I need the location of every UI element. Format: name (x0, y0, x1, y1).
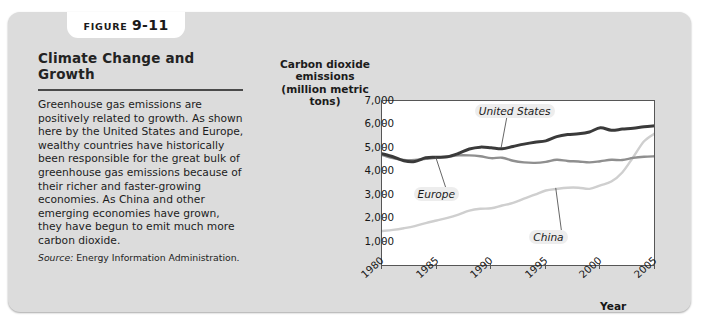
figure-heading: Climate Change and Growth (38, 50, 253, 82)
y-tick-label: 6,000 (365, 117, 394, 129)
figure-number-tab: FIGURE 9-11 (67, 12, 185, 38)
y-tick-label: 7,000 (365, 94, 394, 106)
y-tick-mark (381, 217, 386, 218)
series-line (382, 133, 655, 231)
source-value: Energy Information Administration. (76, 252, 239, 263)
x-axis-title: Year (600, 300, 626, 312)
y-tick-mark (381, 194, 386, 195)
y-tick-mark (381, 123, 386, 124)
series-label-europe: Europe (414, 187, 460, 201)
figure-number: 9-11 (132, 17, 169, 33)
y-tick-mark (381, 170, 386, 171)
series-label-china: China (529, 230, 567, 244)
series-lines (382, 101, 655, 265)
series-line (382, 126, 655, 162)
figure-source: Source: Energy Information Administratio… (38, 252, 253, 263)
y-tick-label: 3,000 (365, 188, 394, 200)
series-label-united-states: United States (475, 104, 555, 118)
y-axis-title-line-3: (million metric tons) (270, 83, 380, 108)
y-tick-label: 5,000 (365, 141, 394, 153)
figure-body-text: Greenhouse gas emissions are positively … (38, 98, 245, 248)
line-chart: Carbon dioxide emissions (million metric… (270, 52, 690, 302)
plot-area (381, 100, 655, 266)
source-label: Source: (38, 252, 73, 263)
figure-label: FIGURE (83, 21, 127, 32)
y-tick-mark (381, 100, 386, 101)
y-axis-title-line-1: Carbon dioxide (270, 58, 380, 70)
y-axis-title-line-2: emissions (270, 70, 380, 82)
y-tick-mark (381, 147, 386, 148)
heading-divider (38, 89, 243, 91)
figure-text-column: Climate Change and Growth Greenhouse gas… (38, 50, 253, 263)
y-axis-title: Carbon dioxide emissions (million metric… (270, 58, 380, 108)
plot-right-border (654, 101, 655, 265)
y-tick-label: 1,000 (365, 235, 394, 247)
y-tick-label: 4,000 (365, 164, 394, 176)
y-tick-mark (381, 241, 386, 242)
y-tick-label: 2,000 (365, 211, 394, 223)
figure-panel: FIGURE 9-11 Climate Change and Growth Gr… (8, 12, 691, 312)
